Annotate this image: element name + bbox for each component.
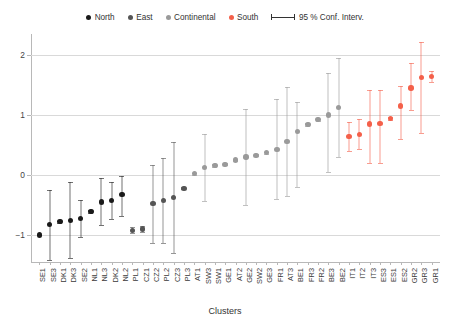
x-axis-tick: [349, 262, 350, 265]
x-axis-tick: [81, 262, 82, 265]
x-axis-tick-label-sw2: SW2: [255, 268, 264, 284]
error-bar: [328, 73, 329, 172]
x-axis-tick-label-sw1: SW1: [213, 268, 222, 284]
error-bar-cap-upper: [336, 58, 341, 59]
marker-dot: [150, 201, 155, 206]
error-bar-cap-lower: [161, 243, 166, 244]
error-bar-cap-upper: [378, 90, 383, 91]
x-axis-tick: [215, 262, 216, 265]
legend-item-label: South: [237, 13, 258, 22]
x-axis-tick-label-fr1: FR1: [275, 268, 284, 282]
x-axis-tick: [266, 262, 267, 265]
marker-dot: [47, 222, 52, 227]
marker-dot: [140, 226, 145, 231]
x-axis-tick-label-at1: AT1: [193, 268, 202, 281]
x-axis-tick-label-it2: IT2: [358, 268, 367, 279]
marker-dot: [222, 162, 227, 167]
x-axis-tick: [328, 262, 329, 265]
marker-dot: [326, 112, 331, 117]
marker-dot: [202, 165, 207, 170]
x-axis-tick: [432, 262, 433, 265]
error-bar-cap-upper: [357, 119, 362, 120]
error-bar-cap-lower: [378, 163, 383, 164]
error-bar-cap-upper: [326, 73, 331, 74]
marker-dot: [367, 121, 372, 126]
error-bar-cap-lower: [295, 187, 300, 188]
x-axis-tick: [174, 262, 175, 265]
x-axis-tick-label-cz2: CZ2: [151, 268, 160, 282]
x-axis-title: Clusters: [0, 306, 450, 316]
x-axis-tick: [91, 262, 92, 265]
error-bar-cap-lower: [99, 225, 104, 226]
x-axis-tick-label-ge1: GE1: [224, 268, 233, 283]
error-bar-cap-upper: [202, 134, 207, 135]
error-bar-cap-lower: [119, 216, 124, 217]
error-bar: [380, 90, 381, 163]
x-axis-tick-label-fr2: FR2: [317, 268, 326, 282]
marker-dot: [357, 132, 362, 137]
marker-dot: [109, 198, 114, 203]
x-axis-tick-label-be3: BE3: [327, 268, 336, 282]
x-axis-tick-label-nl1: NL1: [89, 268, 98, 282]
x-axis-tick: [39, 262, 40, 265]
x-axis-tick: [236, 262, 237, 265]
y-axis-tick: [27, 55, 31, 56]
error-bar-cap-upper: [429, 71, 434, 72]
x-axis-tick-label-ge3: GE3: [265, 268, 274, 283]
x-axis-line: SE1SE3DK1DK3SE2NL1NL3DK2NL2PL1CZ1CZ2PL2C…: [31, 262, 440, 263]
x-axis-tick-label-be2: BE2: [337, 268, 346, 282]
x-axis-tick-label-it1: IT1: [348, 268, 357, 279]
x-axis-tick: [153, 262, 154, 265]
error-bar-cap-upper: [295, 102, 300, 103]
x-axis-tick-label-es3: ES3: [379, 268, 388, 282]
x-axis-tick-label-be1: BE1: [296, 268, 305, 282]
error-bar-cap-upper: [171, 142, 176, 143]
marker-dot: [398, 103, 403, 108]
error-bar: [297, 102, 298, 187]
error-bar-cap-lower: [409, 110, 414, 111]
error-bar-cap-upper: [99, 178, 104, 179]
dot-icon: [86, 15, 91, 20]
y-axis-tick: [27, 115, 31, 116]
error-bar-cap-lower: [150, 243, 155, 244]
marker-dot: [161, 198, 166, 203]
error-bar-cap-upper: [78, 200, 83, 201]
legend-item-south: South: [229, 13, 259, 22]
marker-dot: [68, 218, 73, 223]
x-axis-tick: [390, 262, 391, 265]
marker-dot: [243, 154, 248, 159]
marker-dot: [429, 74, 434, 79]
error-bar-cap-lower: [326, 172, 331, 173]
x-axis-tick: [277, 262, 278, 265]
error-bar-icon: [271, 14, 295, 21]
error-bar-cap-upper: [274, 99, 279, 100]
legend-item-north: North: [86, 13, 115, 22]
marker-dot: [346, 134, 351, 139]
x-axis-tick-label-at2: AT2: [234, 268, 243, 281]
x-axis-tick-label-cz3: CZ3: [172, 268, 181, 282]
x-axis-tick: [411, 262, 412, 265]
x-axis-tick-label-nl2: NL2: [120, 268, 129, 282]
error-bar-cap-lower: [398, 139, 403, 140]
x-axis-tick: [163, 262, 164, 265]
error-bar-cap-upper: [109, 182, 114, 183]
plot-area: −1012: [31, 34, 440, 262]
x-axis-tick: [297, 262, 298, 265]
legend-ci-label: 95 % Conf. Interv.: [299, 13, 364, 22]
x-axis-tick-label-gr2: GR2: [410, 268, 419, 283]
error-bar-cap-upper: [409, 63, 414, 64]
marker-dot: [119, 192, 124, 197]
error-bar-cap-upper: [119, 176, 124, 177]
x-axis-tick: [370, 262, 371, 265]
x-axis-tick-label-dk3: DK3: [69, 268, 78, 282]
x-axis-tick: [359, 262, 360, 265]
marker-dot: [88, 209, 93, 214]
x-axis-tick-label-gr1: GR1: [430, 268, 439, 283]
x-axis-tick: [132, 262, 133, 265]
x-axis-tick-label-se3: SE3: [48, 268, 57, 282]
x-axis-tick-label-se2: SE2: [79, 268, 88, 282]
legend-item-east: East: [128, 13, 153, 22]
x-axis-tick-label-ge2: GE2: [244, 268, 253, 283]
x-axis-tick: [101, 262, 102, 265]
x-axis-tick-label-se1: SE1: [38, 268, 47, 282]
